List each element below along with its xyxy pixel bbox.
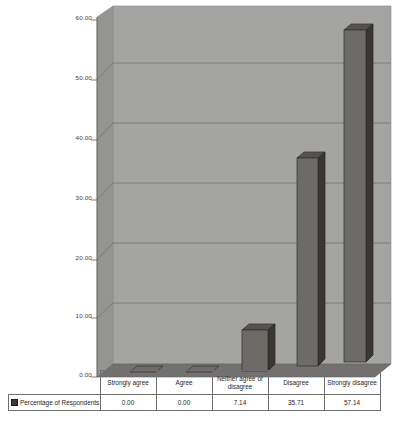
bar-neither-agree-or-disagree (242, 324, 275, 371)
value-cell-neither-agree-or-disagree: 7.14 (212, 395, 268, 411)
y-tick-label: 50.00 (48, 74, 92, 81)
y-tick-label: 10.00 (48, 312, 92, 319)
value-cell-disagree: 35.71 (268, 395, 324, 411)
legend-swatch-icon (11, 399, 18, 406)
table-row: Percentage of Respondents 0.00 0.00 7.14… (9, 395, 381, 411)
value-cell-strongly-disagree: 57.14 (324, 395, 380, 411)
value-cell-strongly-agree: 0.00 (100, 395, 156, 411)
table-header-row: Strongly agree Agree Neither agree or di… (9, 371, 381, 395)
table-corner-cell (9, 371, 101, 395)
y-tick-label: 30.00 (48, 194, 92, 201)
category-header-neither-agree-or-disagree: Neither agree or disagree (212, 371, 268, 395)
y-tick-label: 40.00 (48, 134, 92, 141)
category-header-disagree: Disagree (268, 371, 324, 395)
bar-disagree (297, 152, 325, 366)
chart-data-table: Strongly agree Agree Neither agree or di… (8, 370, 381, 411)
bar-strongly-disagree (344, 24, 373, 362)
category-header-strongly-agree: Strongly agree (100, 371, 156, 395)
category-header-agree: Agree (156, 371, 212, 395)
y-tick-label: 60.00 (48, 14, 92, 21)
chart-container: 60.00 50.00 40.00 30.00 20.00 10.00 0.00… (0, 0, 400, 424)
y-tick-label: 20.00 (48, 254, 92, 261)
series-label: Percentage of Respondents (20, 399, 99, 406)
series-legend-cell: Percentage of Respondents (9, 395, 101, 411)
category-header-strongly-disagree: Strongly disagree (324, 371, 380, 395)
y-axis-tick-labels: 60.00 50.00 40.00 30.00 20.00 10.00 0.00 (48, 0, 92, 380)
value-cell-agree: 0.00 (156, 395, 212, 411)
